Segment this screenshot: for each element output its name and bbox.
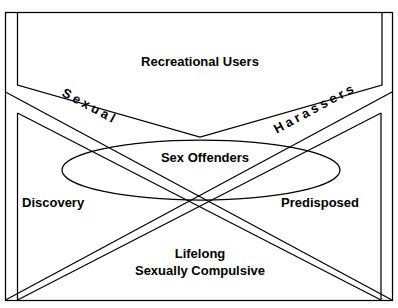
- recreational-users-region-outline: [18, 13, 383, 138]
- label-discovery: Discovery: [22, 195, 85, 210]
- label-sexually-compulsive: Sexually Compulsive: [135, 263, 265, 278]
- label-recreational-users: Recreational Users: [141, 54, 259, 69]
- label-harassers: Harassers: [271, 80, 359, 137]
- typology-diagram: Recreational Users Sexual Harassers Sex …: [0, 0, 398, 308]
- label-sex-offenders: Sex Offenders: [161, 150, 249, 165]
- diagram-canvas: Recreational Users Sexual Harassers Sex …: [0, 0, 398, 308]
- label-predisposed: Predisposed: [281, 195, 359, 210]
- label-sexual: Sexual: [60, 85, 121, 127]
- sex-offenders-ellipse: [62, 140, 340, 200]
- label-lifelong: Lifelong: [175, 246, 226, 261]
